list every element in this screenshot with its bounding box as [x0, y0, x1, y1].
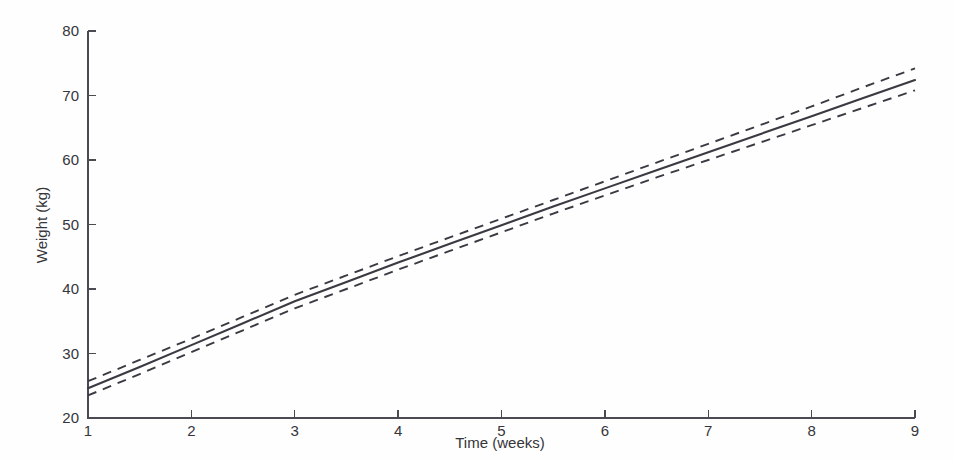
confidence-band-line [88, 90, 915, 395]
x-tick-marks [88, 410, 915, 418]
x-tick-label: 3 [291, 422, 299, 439]
y-tick-label: 50 [62, 216, 79, 233]
y-tick-label: 20 [62, 409, 79, 426]
y-axis-title: Weight (kg) [33, 187, 50, 263]
line-chart-canvas: 20304050607080 123456789 Weight (kg) Tim… [0, 0, 954, 462]
y-tick-label: 30 [62, 345, 79, 362]
y-tick-label: 70 [62, 87, 79, 104]
x-tick-label: 4 [394, 422, 402, 439]
y-tick-labels-group: 20304050607080 [62, 22, 79, 426]
x-tick-label: 7 [704, 422, 712, 439]
y-tick-label: 60 [62, 151, 79, 168]
x-tick-label: 1 [84, 422, 92, 439]
x-tick-label: 2 [187, 422, 195, 439]
chart-figure: 20304050607080 123456789 Weight (kg) Tim… [0, 0, 954, 462]
x-tick-label: 9 [911, 422, 919, 439]
y-tick-marks [88, 31, 96, 418]
x-tick-label: 8 [807, 422, 815, 439]
fitted-line [88, 80, 915, 388]
x-axis-title: Time (weeks) [455, 434, 544, 451]
y-tick-label: 80 [62, 22, 79, 39]
data-series-group [88, 68, 915, 395]
y-tick-label: 40 [62, 280, 79, 297]
x-tick-label: 6 [601, 422, 609, 439]
